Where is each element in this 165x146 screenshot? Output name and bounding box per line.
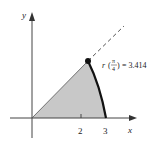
annotation-paren-close: ) xyxy=(117,61,120,70)
annotation-value: = 3.414 xyxy=(122,61,147,70)
annotation-func: r xyxy=(102,61,106,70)
x-axis-label: x xyxy=(127,125,132,135)
annotation-paren-open: ( xyxy=(108,61,111,70)
y-axis-arrow-icon xyxy=(29,12,35,21)
shaded-sector xyxy=(32,61,106,118)
x-tick-label-3: 3 xyxy=(103,126,108,136)
ray-dashed xyxy=(88,26,124,61)
y-axis-label: y xyxy=(21,10,26,20)
polar-region-diagram: y x 2 3 r ( π 4 ) = 3.414 xyxy=(0,0,165,146)
annotation-frac-num: π xyxy=(112,58,115,64)
annotation-frac-den: 4 xyxy=(112,66,115,72)
x-axis-arrow-icon xyxy=(129,115,137,121)
x-tick-label-2: 2 xyxy=(78,126,83,136)
point-marker xyxy=(85,58,91,64)
